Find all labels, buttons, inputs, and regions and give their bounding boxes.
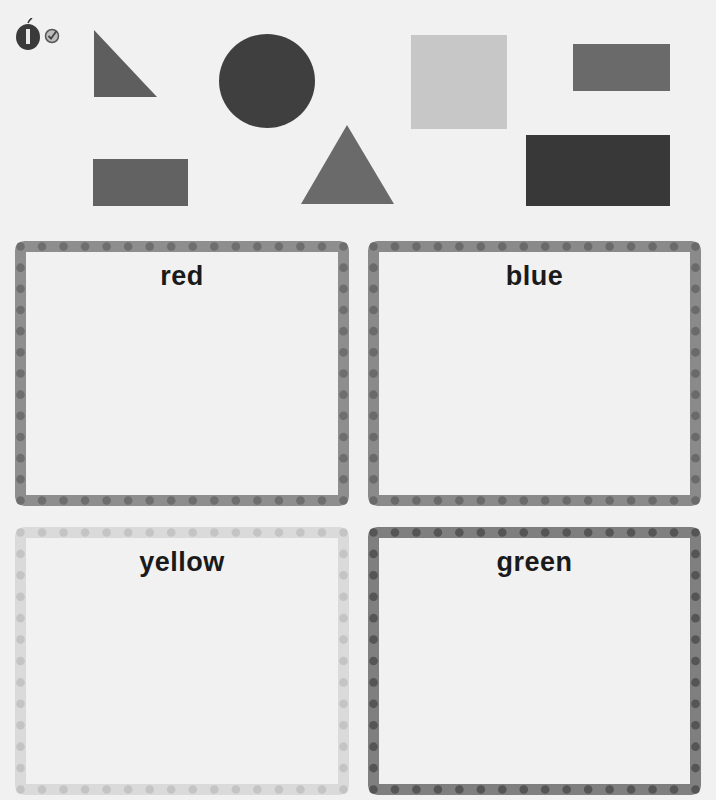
right-triangle-shape[interactable] <box>93 29 158 99</box>
rectangle-shape-top-right[interactable] <box>573 44 670 91</box>
sort-box-yellow[interactable]: yellow <box>15 527 349 795</box>
box-label: red <box>15 261 349 292</box>
checkmark-icon <box>44 28 60 44</box>
box-label: blue <box>368 261 701 292</box>
sort-box-blue[interactable]: blue <box>368 241 701 506</box>
circle-shape[interactable] <box>219 34 315 128</box>
rectangle-shape-dark[interactable] <box>526 135 670 206</box>
rectangle-shape-left[interactable] <box>93 159 188 206</box>
sort-box-red[interactable]: red <box>15 241 349 506</box>
sort-box-green[interactable]: green <box>368 527 701 795</box>
logo <box>14 18 64 52</box>
triangle-shape[interactable] <box>300 124 396 206</box>
box-label: green <box>368 547 701 578</box>
square-shape[interactable] <box>411 35 507 129</box>
box-label: yellow <box>15 547 349 578</box>
